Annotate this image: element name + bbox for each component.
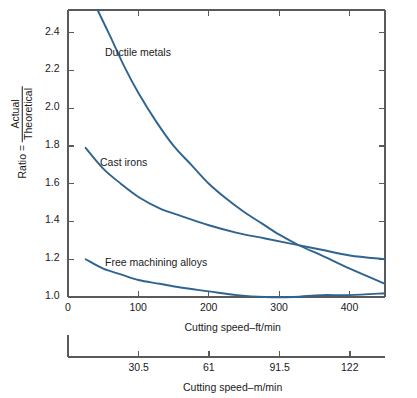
x2-tick-label-61: 61	[203, 361, 215, 373]
x-axis-label-secondary: Cutting speed–m/min	[183, 381, 282, 393]
x-tick-label-300: 300	[270, 301, 288, 313]
y-tick-label-2.2: 2.2	[45, 62, 60, 74]
x-tick-label-0: 0	[65, 301, 71, 313]
x2-tick-label-122: 122	[341, 361, 359, 373]
y-axis-label-prefix: Ratio =	[16, 145, 28, 179]
y-axis-label: Ratio = Actual Theoretical	[10, 84, 35, 180]
y-tick-label-2.4: 2.4	[45, 25, 60, 37]
x2-tick-label-91.5: 91.5	[269, 361, 289, 373]
series-label-free-machining-alloys: Free machining alloys	[105, 256, 207, 268]
plot-area	[0, 0, 417, 398]
y-axis-label-numerator: Actual	[10, 97, 22, 130]
x-axis-label-primary: Cutting speed–ft/min	[185, 321, 281, 333]
y-axis-label-fraction: Actual Theoretical	[10, 86, 35, 142]
x-tick-label-400: 400	[341, 301, 359, 313]
y-tick-label-1.4: 1.4	[45, 213, 60, 225]
y-tick-label-2.0: 2.0	[45, 100, 60, 112]
x2-tick-label-30.5: 30.5	[128, 361, 148, 373]
y-tick-label-1.8: 1.8	[45, 138, 60, 150]
series-label-ductile-metals: Ductile metals	[105, 46, 171, 58]
y-tick-label-1.0: 1.0	[45, 289, 60, 301]
x-tick-label-200: 200	[200, 301, 218, 313]
chart-figure: Ratio = Actual Theoretical Cutting speed…	[0, 0, 417, 398]
x-tick-label-100: 100	[129, 301, 147, 313]
series-label-cast-irons: Cast irons	[100, 156, 147, 168]
y-axis-label-denominator: Theoretical	[22, 86, 35, 142]
y-tick-label-1.6: 1.6	[45, 176, 60, 188]
y-tick-label-1.2: 1.2	[45, 251, 60, 263]
